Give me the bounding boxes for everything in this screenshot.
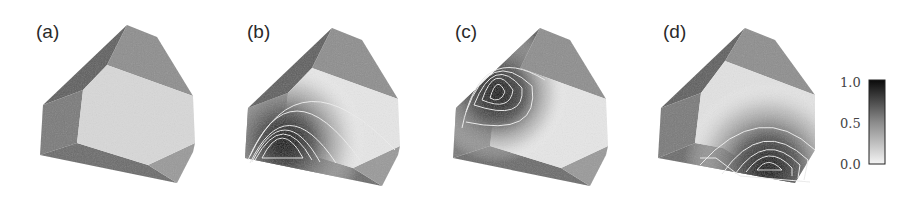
panel-a: [40, 25, 195, 183]
panel-label-c: (c): [455, 21, 477, 42]
colorbar: 1.0 0.5 0.0: [840, 75, 885, 172]
colorbar-tick-max: 1.0: [840, 75, 861, 90]
panel-label-d: (d): [663, 21, 686, 42]
colorbar-gradient: [869, 80, 885, 164]
panel-c: [422, 18, 608, 186]
panel-d: [658, 28, 858, 200]
colorbar-tick-min: 0.0: [840, 157, 861, 172]
figure-canvas: (a) (b): [0, 0, 921, 200]
panel-label-a: (a): [36, 21, 59, 42]
colorbar-tick-mid: 0.5: [840, 116, 861, 131]
panel-b: [200, 28, 400, 200]
panel-label-b: (b): [247, 21, 270, 42]
